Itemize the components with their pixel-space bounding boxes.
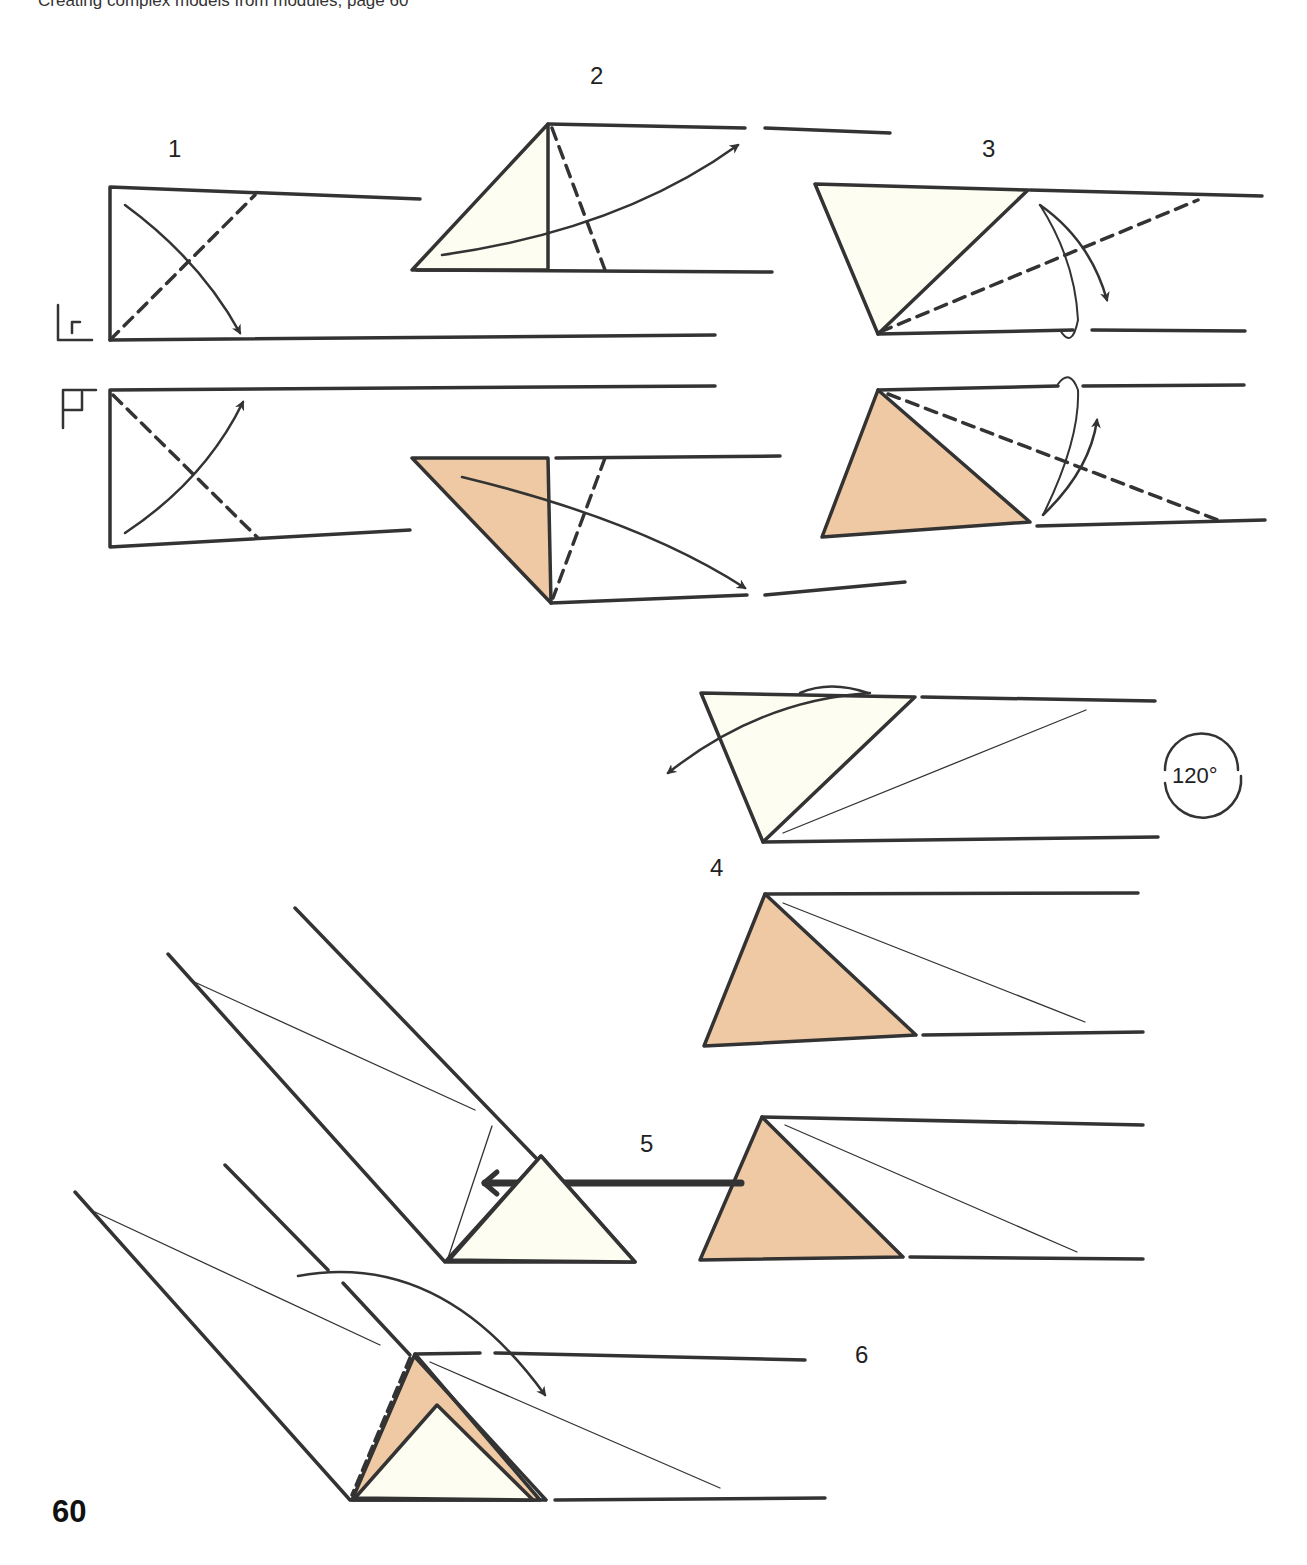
folding-diagram: [0, 0, 1307, 1565]
step-1-label: 1: [168, 135, 181, 163]
step-4-label: 4: [710, 854, 723, 882]
step-3-label: 3: [982, 135, 995, 163]
step6: [75, 1165, 825, 1500]
step3-top: [815, 184, 1262, 338]
step2-top: [412, 124, 890, 272]
step4-bottom: [704, 893, 1143, 1046]
step4-top: [668, 687, 1158, 843]
page-number: 60: [52, 1494, 86, 1530]
step5-left: [168, 908, 635, 1262]
rotation-label: 120°: [1172, 763, 1218, 789]
step3-bottom: [822, 377, 1265, 537]
step-5-label: 5: [640, 1130, 653, 1158]
step5-right: [700, 1117, 1143, 1260]
step-6-label: 6: [855, 1341, 868, 1369]
step1-bottom-strip: [63, 386, 715, 547]
step-2-label: 2: [590, 62, 603, 90]
